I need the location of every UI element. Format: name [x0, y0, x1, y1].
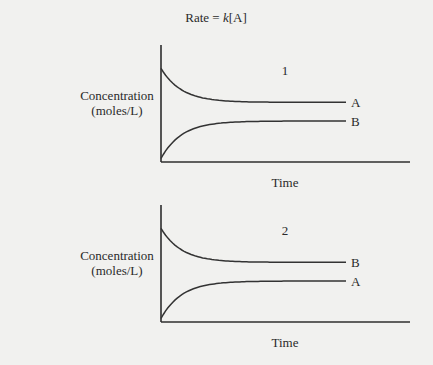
- y-axis-label-line2: (moles/L): [91, 263, 142, 278]
- series-label-a: A: [351, 274, 361, 289]
- series-label-b: B: [351, 114, 360, 129]
- series-line-b: [161, 228, 346, 262]
- x-axis-label: Time: [272, 335, 299, 350]
- x-axis-label: Time: [272, 175, 299, 190]
- figure-title: Rate = k[A]: [185, 10, 246, 25]
- series-line-a: [161, 68, 346, 102]
- series-line-b: [161, 121, 346, 158]
- y-axis-label-line2: (moles/L): [91, 103, 142, 118]
- panel-label: 2: [282, 223, 289, 238]
- series-label-a: A: [351, 95, 361, 110]
- chart-panel-1: 1 Concentration (moles/L) Time AB: [80, 45, 410, 190]
- series-label-b: B: [351, 255, 360, 270]
- figure: Rate = k[A] 1 Concentration (moles/L) Ti…: [0, 0, 433, 365]
- panel-label: 1: [282, 63, 289, 78]
- series-line-a: [161, 281, 346, 318]
- chart-panel-2: 2 Concentration (moles/L) Time BA: [80, 205, 410, 350]
- y-axis-label-line1: Concentration: [80, 88, 154, 103]
- y-axis-label-line1: Concentration: [80, 248, 154, 263]
